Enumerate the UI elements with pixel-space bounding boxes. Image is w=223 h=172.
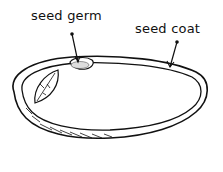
seed-germ-label: seed germ xyxy=(31,8,102,23)
seed-germ xyxy=(71,62,89,69)
seed-diagram: seed germ seed coat xyxy=(0,0,223,172)
seed-coat-label: seed coat xyxy=(135,21,200,36)
